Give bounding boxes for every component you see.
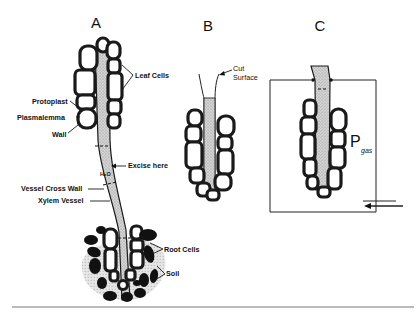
panel-letter-a: A: [91, 14, 101, 31]
label-cut-surface-2: Surface: [233, 73, 258, 82]
label-leaf-cells: Leaf Cells: [135, 71, 169, 80]
panel-c: C P gas: [270, 17, 403, 212]
cut-surface-arrow-icon: [219, 71, 225, 76]
water-column-b: [204, 98, 215, 196]
gas-inlet-arrow-icon: [364, 203, 371, 209]
leaf-cells-leader: [122, 65, 133, 90]
panel-a: A: [17, 14, 200, 302]
seal-right: [329, 78, 333, 82]
wall-leader: [68, 125, 78, 133]
seal-left: [311, 78, 315, 82]
label-soil: Soil: [166, 269, 179, 278]
panel-letter-b: B: [203, 17, 213, 34]
label-excise-here: Excise here: [128, 161, 168, 170]
label-p-gas-sub: gas: [361, 147, 373, 155]
label-root-cells: Root Cells: [164, 245, 200, 254]
label-h2o: H₂O: [100, 171, 111, 177]
label-wall: Wall: [52, 130, 67, 139]
label-xylem-vessel: Xylem Vessel: [38, 196, 84, 205]
panel-letter-c: C: [315, 17, 326, 34]
label-cut-surface-1: Cut: [233, 64, 244, 73]
panel-b: B Cut Surface: [186, 17, 258, 200]
label-plasmalemma: Plasmalemma: [17, 113, 66, 122]
label-protoplast: Protoplast: [32, 97, 68, 106]
label-vessel-cross-wall: Vessel Cross Wall: [21, 184, 82, 193]
xylem-pressure-diagram: A: [0, 0, 418, 322]
label-p-gas: P: [350, 133, 361, 150]
p-gas-main: P: [350, 133, 361, 150]
